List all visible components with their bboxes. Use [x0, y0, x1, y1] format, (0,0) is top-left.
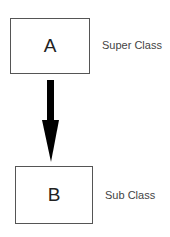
sub-class-label: Sub Class [105, 189, 155, 201]
class-box-b: B [15, 166, 93, 224]
class-b-label: B [48, 184, 61, 206]
